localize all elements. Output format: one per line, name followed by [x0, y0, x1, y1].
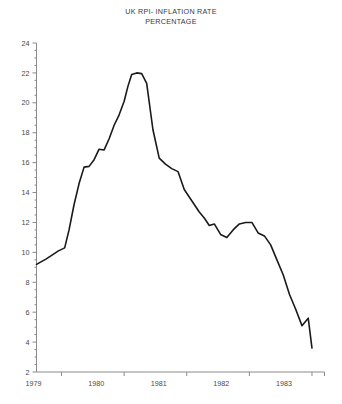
y-axis-tick-label: 20	[22, 98, 30, 107]
chart-container: UK RPI- INFLATION RATE PERCENTAGE 246810…	[0, 0, 342, 404]
x-axis-tick-label: 1983	[276, 379, 292, 388]
y-axis-tick-label: 4	[26, 338, 30, 347]
y-axis-tick-label: 12	[22, 218, 30, 227]
y-axis-tick-label: 10	[22, 248, 30, 257]
series-line	[37, 73, 312, 348]
y-axis-tick-label: 24	[22, 39, 30, 48]
y-axis-tick-label: 8	[26, 278, 30, 287]
x-axis-tick-label: 1981	[151, 379, 167, 388]
y-axis-tick-label: 6	[26, 308, 30, 317]
y-axis-tick-label: 2	[26, 368, 30, 377]
x-axis-tick-label: 1980	[88, 379, 104, 388]
x-axis: 19791980198119821983	[26, 372, 325, 388]
x-axis-tick-label: 1979	[26, 379, 42, 388]
line-chart-plot: 24681012141618202224 1979198019811982198…	[0, 0, 342, 404]
y-axis-tick-label: 16	[22, 158, 30, 167]
y-axis: 24681012141618202224	[22, 39, 37, 377]
y-axis-tick-label: 22	[22, 69, 30, 78]
data-series-group	[37, 73, 312, 348]
y-axis-tick-label: 14	[22, 188, 30, 197]
y-axis-tick-label: 18	[22, 128, 30, 137]
x-axis-tick-label: 1982	[213, 379, 229, 388]
